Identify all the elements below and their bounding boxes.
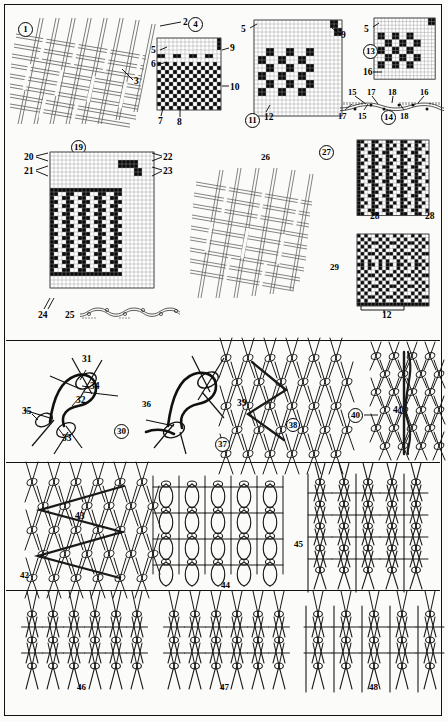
figure-44-knit-mesh [152, 470, 282, 580]
figure-number-46: 46 [74, 680, 89, 695]
figure-48-knit-mesh [302, 598, 434, 678]
figure-number-45: 45 [291, 537, 306, 552]
figure-number-47: 47 [217, 680, 232, 695]
figure-40-leaders [0, 340, 448, 462]
figure-sheet: 1 2 3 4 5 6 7 8 9 10 11 5 9 12 13 5 16 [0, 0, 448, 722]
callout-43: 43 [75, 512, 85, 522]
figure-46-knit-mesh [18, 598, 146, 678]
figure-number-42: 42 [17, 568, 32, 583]
figure-29-brace [0, 0, 448, 340]
figure-number-48: 48 [366, 680, 381, 695]
figure-47-knit-mesh [160, 598, 288, 678]
figure-45-knit-mesh [306, 470, 430, 582]
figure-42-knit-mesh [18, 470, 146, 586]
figure-number-44: 44 [218, 578, 233, 593]
